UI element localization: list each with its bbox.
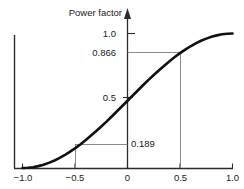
y-axis-label-05: 0.5: [90, 93, 116, 103]
x-axis-ticks: [23, 163, 233, 169]
annotation-label-0189: 0.189: [131, 139, 171, 149]
x-axis-label-1: 1.0: [214, 173, 244, 183]
y-axis-label-0866: 0.866: [75, 48, 116, 58]
x-axis-label-neg05: −0.5: [56, 173, 94, 183]
x-axis-label-0: 0: [110, 173, 145, 183]
chart-plot-area: [0, 0, 244, 189]
y-axis-label-1: 1.0: [75, 29, 116, 39]
y-axis-arrow-icon: [124, 8, 131, 19]
power-factor-chart-figure: Power factor 1.0 0.866 0.5 0.189 −1.0 −0…: [0, 0, 244, 189]
x-axis-label-neg1: −1.0: [4, 173, 42, 183]
x-axis-label-05: 0.5: [162, 173, 199, 183]
chart-title: Power factor: [56, 8, 122, 18]
